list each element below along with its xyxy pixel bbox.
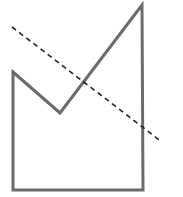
diagram-canvas — [0, 0, 183, 197]
background — [0, 0, 183, 197]
